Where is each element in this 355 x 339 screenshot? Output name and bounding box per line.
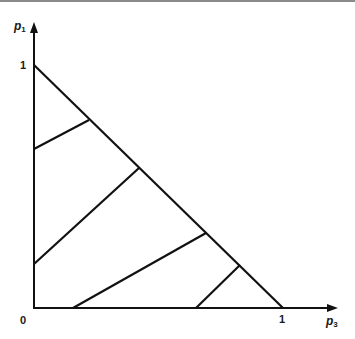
y-axis-arrow-icon — [30, 22, 38, 33]
hypotenuse-line — [34, 65, 283, 308]
x-axis-arrow-icon — [327, 304, 338, 312]
x-tick-1: 1 — [279, 313, 285, 325]
indifference-line-2 — [34, 168, 139, 264]
y-tick-1: 1 — [20, 59, 26, 71]
indifference-line-4 — [196, 265, 240, 308]
x-axis-label: p3 — [325, 314, 338, 329]
simplex-diagram: p1 1 0 1 p3 — [0, 0, 355, 339]
origin-label: 0 — [20, 314, 26, 326]
y-axis-label: p1 — [13, 19, 26, 34]
indifference-line-1 — [34, 120, 89, 149]
indifference-line-3 — [73, 233, 206, 308]
